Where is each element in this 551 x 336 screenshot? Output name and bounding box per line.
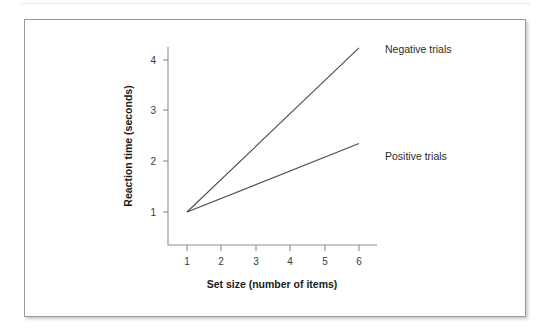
screenshot-root: 4 3 2 1 1 2 3 4 5 6 — [0, 0, 551, 336]
x-tick-label: 4 — [287, 256, 293, 267]
x-tick-label: 1 — [184, 256, 190, 267]
page-top-rule — [21, 3, 530, 4]
series-line-positive-trials — [187, 144, 359, 212]
series-line-negative-trials — [187, 48, 359, 212]
y-axis-title: Reaction time (seconds) — [122, 85, 134, 206]
x-tick-marks — [187, 245, 359, 251]
y-tick-label: 4 — [150, 55, 156, 66]
x-axis-title: Set size (number of items) — [207, 278, 338, 290]
y-tick-label: 2 — [150, 156, 156, 167]
series-label-positive-trials: Positive trials — [385, 150, 447, 162]
series-lines — [187, 48, 359, 212]
y-tick-label: 3 — [150, 105, 156, 116]
x-tick-label: 2 — [218, 256, 224, 267]
x-tick-label: 6 — [356, 256, 362, 267]
y-tick-label: 1 — [150, 207, 156, 218]
y-tick-labels: 4 3 2 1 — [150, 55, 156, 218]
x-tick-label: 3 — [253, 256, 259, 267]
series-label-negative-trials: Negative trials — [385, 43, 452, 55]
figure-frame: 4 3 2 1 1 2 3 4 5 6 — [24, 19, 526, 317]
x-tick-labels: 1 2 3 4 5 6 — [184, 256, 362, 267]
x-tick-label: 5 — [322, 256, 328, 267]
line-chart: 4 3 2 1 1 2 3 4 5 6 — [25, 20, 525, 316]
y-tick-marks — [163, 60, 168, 212]
